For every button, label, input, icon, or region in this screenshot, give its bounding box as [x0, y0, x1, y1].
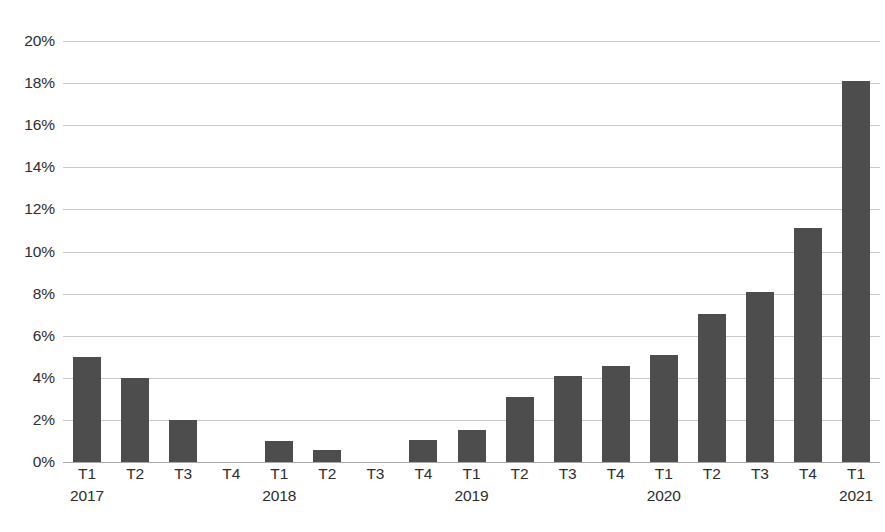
x-tick-period-label: T1 [454, 463, 488, 485]
bar [602, 366, 630, 462]
x-tick-period-label: T1 [70, 463, 104, 485]
bar [554, 376, 582, 462]
x-tick-period-label: T1 [262, 463, 296, 485]
x-tick-year-label [414, 485, 432, 507]
bar [746, 292, 774, 463]
y-tick-label: 12% [24, 200, 55, 218]
y-axis: 20%18%16%14%12%10%8%6%4%2%0% [0, 41, 55, 462]
x-tick: T4 [222, 463, 240, 507]
x-tick-period-label: T2 [126, 463, 144, 485]
x-tick: T12019 [454, 463, 488, 507]
bar [409, 440, 437, 462]
bar [650, 355, 678, 462]
bar [506, 397, 534, 462]
bar [121, 378, 149, 462]
x-tick: T12017 [70, 463, 104, 507]
bar-chart: 20%18%16%14%12%10%8%6%4%2%0% T12017T2T3T… [0, 0, 885, 532]
y-tick-label: 2% [33, 411, 55, 429]
x-tick-period-label: T3 [751, 463, 769, 485]
x-tick: T4 [607, 463, 625, 507]
bar [73, 357, 101, 462]
x-tick-year-label [511, 485, 529, 507]
y-tick-label: 14% [24, 158, 55, 176]
x-tick-period-label: T3 [559, 463, 577, 485]
y-tick-label: 8% [33, 285, 55, 303]
x-tick-year-label: 2019 [454, 485, 488, 507]
bar [458, 430, 486, 462]
x-tick-year-label: 2020 [647, 485, 681, 507]
x-tick-year-label [559, 485, 577, 507]
x-tick: T3 [366, 463, 384, 507]
x-tick-period-label: T2 [318, 463, 336, 485]
x-tick-period-label: T3 [366, 463, 384, 485]
x-tick: T12021 [839, 463, 873, 507]
x-tick: T2 [126, 463, 144, 507]
x-tick: T3 [174, 463, 192, 507]
x-tick-year-label [703, 485, 721, 507]
x-tick-year-label: 2018 [262, 485, 296, 507]
y-tick-label: 20% [24, 32, 55, 50]
x-tick: T2 [703, 463, 721, 507]
x-tick: T2 [511, 463, 529, 507]
x-tick-period-label: T4 [607, 463, 625, 485]
x-tick: T12018 [262, 463, 296, 507]
bars-layer [63, 41, 880, 462]
x-tick-period-label: T4 [222, 463, 240, 485]
x-tick-period-label: T3 [174, 463, 192, 485]
bar [313, 450, 341, 462]
x-tick: T4 [414, 463, 432, 507]
y-tick-label: 4% [33, 369, 55, 387]
x-tick-year-label [318, 485, 336, 507]
x-tick: T4 [799, 463, 817, 507]
x-tick-year-label: 2021 [839, 485, 873, 507]
x-tick: T2 [318, 463, 336, 507]
x-tick-year-label [222, 485, 240, 507]
x-tick: T3 [559, 463, 577, 507]
x-tick-year-label [366, 485, 384, 507]
x-tick-period-label: T1 [647, 463, 681, 485]
bar [265, 441, 293, 462]
x-tick-year-label [174, 485, 192, 507]
x-tick-year-label [799, 485, 817, 507]
y-tick-label: 18% [24, 74, 55, 92]
x-tick-year-label: 2017 [70, 485, 104, 507]
x-tick-period-label: T2 [511, 463, 529, 485]
x-tick: T12020 [647, 463, 681, 507]
bar [169, 420, 197, 462]
x-tick-period-label: T2 [703, 463, 721, 485]
x-tick-period-label: T4 [414, 463, 432, 485]
y-tick-label: 0% [33, 453, 55, 471]
x-tick: T3 [751, 463, 769, 507]
x-tick-period-label: T1 [839, 463, 873, 485]
chart-title [0, 0, 885, 4]
y-tick-label: 6% [33, 327, 55, 345]
bar [698, 314, 726, 462]
y-tick-label: 16% [24, 116, 55, 134]
x-axis: T12017T2T3T4T12018T2T3T4T12019T2T3T4T120… [63, 463, 880, 523]
x-tick-year-label [751, 485, 769, 507]
bar [794, 228, 822, 462]
x-tick-year-label [126, 485, 144, 507]
x-tick-period-label: T4 [799, 463, 817, 485]
x-tick-year-label [607, 485, 625, 507]
y-tick-label: 10% [24, 243, 55, 261]
bar [842, 81, 870, 462]
